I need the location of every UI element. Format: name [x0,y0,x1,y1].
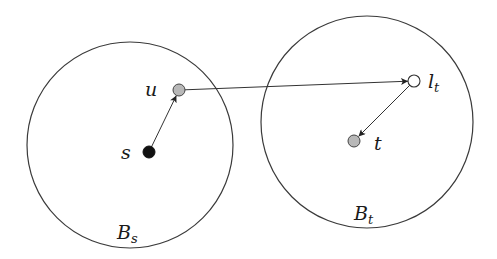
node-lt [408,75,420,87]
label-bs-main: B [116,221,131,243]
label-t: t [374,132,382,154]
label-bt: Bt [353,202,374,227]
label-lt-sub: t [434,80,440,95]
label-bt-sub: t [368,212,374,227]
label-bs: Bs [116,221,138,246]
edge-lt-t [359,85,411,137]
diagram-canvas: s u lt t Bs Bt [0,0,497,259]
label-bs-sub: s [131,231,138,246]
label-s: s [121,141,131,163]
node-u [173,84,185,96]
node-s [143,146,155,158]
label-lt: lt [428,70,440,95]
ball-bt [261,16,473,228]
edge-s-u [149,95,176,152]
label-u: u [145,78,157,100]
node-t [348,135,360,147]
edge-u-lt [185,81,408,90]
label-bt-main: B [353,202,368,224]
